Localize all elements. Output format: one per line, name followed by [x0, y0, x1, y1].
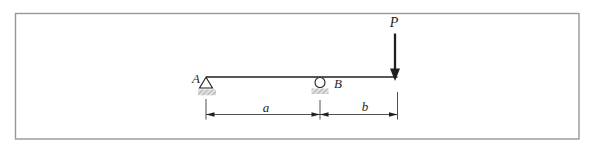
pin-support-A-hatch — [198, 90, 216, 96]
beam-diagram — [0, 0, 591, 144]
label-load-P: P — [390, 16, 399, 30]
dimension-a-arrowhead-right — [312, 112, 321, 117]
roller-support-B-circle — [315, 78, 325, 88]
dimension-b-arrowhead-left — [320, 112, 329, 117]
dimension-a-arrowhead-left — [206, 112, 215, 117]
pin-support-A-triangle — [200, 77, 213, 88]
label-dimension-b: b — [362, 100, 369, 113]
beam-figure: P A B a b — [0, 0, 591, 144]
dimension-b-arrowhead-right — [389, 112, 398, 117]
label-dimension-a: a — [263, 101, 270, 114]
load-arrow-head — [390, 69, 400, 82]
label-support-A: A — [192, 72, 200, 85]
label-support-B: B — [334, 77, 342, 90]
roller-support-B-hatch — [312, 89, 329, 95]
